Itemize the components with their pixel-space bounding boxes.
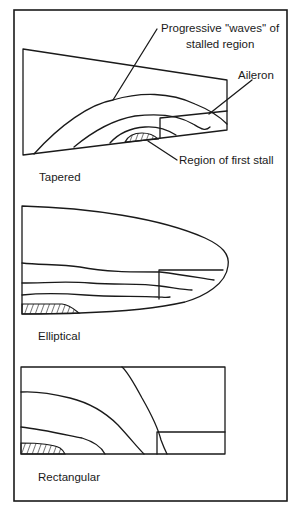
panel-label-tapered: Tapered (39, 172, 81, 184)
aileron-leader-line (209, 80, 252, 114)
callout-aileron: Aileron (238, 70, 274, 82)
elliptical-aileron (159, 270, 223, 299)
elliptical-wave-3 (22, 294, 170, 298)
elliptical-first-stall-hatch (22, 304, 79, 314)
elliptical-wave-2 (22, 282, 192, 290)
tapered-planform-outline (23, 49, 227, 155)
tapered-first-stall-hatch (125, 133, 158, 142)
tapered-wave-middle (74, 115, 210, 147)
outer-frame (14, 10, 287, 501)
tapered-wave-outer (34, 94, 227, 154)
panel-label-elliptical: Elliptical (38, 331, 80, 343)
callout-waves-line2: stalled region (186, 39, 254, 51)
callout-waves-line1: Progressive ''waves'' of (161, 23, 279, 35)
rectangular-aileron (157, 432, 225, 454)
first-stall-leader-line (148, 141, 177, 160)
panel-label-rectangular: Rectangular (38, 472, 100, 484)
elliptical-planform-outline (22, 206, 228, 314)
elliptical-wing (22, 206, 228, 314)
rectangular-planform-outline (21, 367, 225, 454)
elliptical-wave-1 (22, 263, 214, 280)
rectangular-wing (21, 367, 225, 454)
waves-leader-line (113, 29, 157, 100)
rectangular-first-stall-hatch (21, 443, 65, 454)
callout-first-stall: Region of first stall (179, 155, 274, 167)
stall-pattern-diagram: Progressive ''waves'' of stalled region … (0, 0, 296, 509)
rectangular-wave-outer (122, 367, 167, 454)
